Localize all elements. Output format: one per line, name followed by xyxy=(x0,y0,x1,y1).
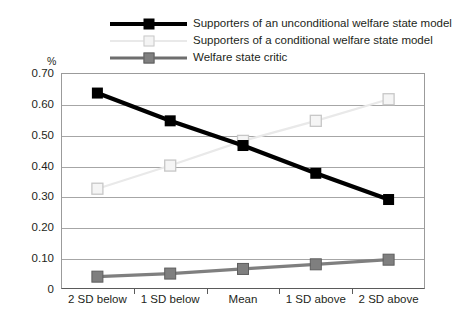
legend-marker xyxy=(143,52,154,63)
y-axis-tick-labels: 0.700.600.500.400.300.200.100 xyxy=(8,73,54,289)
data-point-marker xyxy=(310,168,321,179)
x-tick-mark xyxy=(134,289,135,294)
legend-item-unconditional: Supporters of an unconditional welfare s… xyxy=(110,15,430,32)
legend-label: Supporters of a conditional welfare stat… xyxy=(187,34,433,47)
x-tick-mark xyxy=(279,289,280,294)
y-axis-title: % xyxy=(47,55,56,67)
data-point-marker xyxy=(238,263,249,274)
legend-marker xyxy=(143,35,154,46)
data-point-marker xyxy=(165,115,176,126)
data-point-marker xyxy=(310,115,321,126)
data-point-marker xyxy=(92,88,103,99)
x-tick-label: 2 SD above xyxy=(359,293,419,305)
data-point-marker xyxy=(310,259,321,270)
x-tick-label: Mean xyxy=(229,293,258,305)
y-tick-label: 0.10 xyxy=(8,252,54,264)
x-axis-tick-labels: 2 SD below1 SD belowMean1 SD above2 SD a… xyxy=(61,293,425,313)
data-point-marker xyxy=(92,271,103,282)
x-tick-label: 1 SD above xyxy=(286,293,346,305)
y-tick-label: 0.60 xyxy=(8,98,54,110)
series-3 xyxy=(92,254,394,282)
x-tick-mark xyxy=(207,289,208,294)
x-tick-label: 2 SD below xyxy=(68,293,127,305)
data-point-marker xyxy=(92,183,103,194)
x-tick-label: 1 SD below xyxy=(141,293,200,305)
data-point-marker xyxy=(383,194,394,205)
legend-label: Welfare state critic xyxy=(187,51,287,64)
y-tick-label: 0.50 xyxy=(8,129,54,141)
series-1 xyxy=(92,88,394,205)
data-point-marker xyxy=(383,254,394,265)
legend-item-critic: Welfare state critic xyxy=(110,49,430,66)
chart-legend: Supporters of an unconditional welfare s… xyxy=(110,15,430,66)
light-square-key xyxy=(110,34,187,48)
y-tick-label: 0.20 xyxy=(8,221,54,233)
gray-square-key xyxy=(110,51,187,65)
legend-marker xyxy=(143,18,154,29)
data-point-marker xyxy=(383,94,394,105)
y-tick-label: 0.40 xyxy=(8,160,54,172)
x-tick-mark xyxy=(352,289,353,294)
data-point-marker xyxy=(165,268,176,279)
legend-item-conditional: Supporters of a conditional welfare stat… xyxy=(110,32,430,49)
data-point-marker xyxy=(165,160,176,171)
series-layer xyxy=(61,73,425,289)
data-point-marker xyxy=(238,140,249,151)
y-tick-label: 0.30 xyxy=(8,190,54,202)
y-tick-label: 0.70 xyxy=(8,67,54,79)
y-tick-label: 0 xyxy=(8,283,54,295)
black-square-key xyxy=(110,17,187,31)
legend-label: Supporters of an unconditional welfare s… xyxy=(187,17,452,30)
